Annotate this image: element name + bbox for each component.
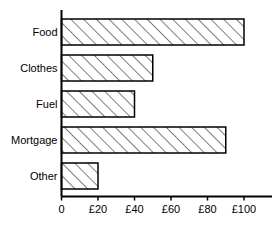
bar-chart: FoodClothesFuelMortgageOther 0£20£40£60£… [0,0,278,228]
bar-mortgage [62,127,226,153]
category-label-other: Other [30,170,58,182]
category-label-food: Food [32,26,57,38]
bars-group [62,19,245,189]
bar-clothes [62,55,153,81]
category-label-clothes: Clothes [20,62,57,74]
bar-fuel [62,91,135,117]
x-tick-label-100: £100 [214,203,274,215]
bar-food [62,19,245,45]
category-label-fuel: Fuel [36,98,57,110]
category-label-mortgage: Mortgage [11,134,57,146]
bar-other [62,163,99,189]
